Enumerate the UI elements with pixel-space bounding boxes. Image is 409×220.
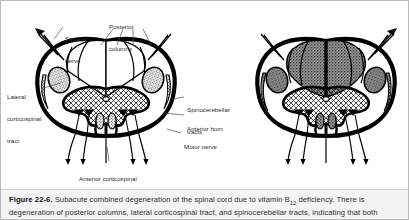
caption-line2: degeneration of posterior columns, later… (9, 208, 378, 217)
label-posterior-columns: Posterior columns (109, 9, 134, 67)
label-sensory-nerve: Sensory nerve (65, 21, 88, 79)
label-motor-nerve: Motor nerve (184, 129, 217, 165)
figure-caption: Figure 22-6. Subacute combined degenerat… (1, 190, 408, 220)
caption-line1: Subacute combined degeneration of the sp… (53, 195, 290, 204)
label-lateral-corticospinal-tract: Lateral corticospinal tract (7, 79, 41, 158)
figure-number: Figure 22-6. (9, 195, 53, 204)
caption-line1b: deficiency. There is (296, 195, 364, 204)
figure-panel: Sensory nerve Posterior columns Lateral … (0, 0, 409, 220)
figure-illustration-area: Sensory nerve Posterior columns Lateral … (1, 1, 408, 189)
